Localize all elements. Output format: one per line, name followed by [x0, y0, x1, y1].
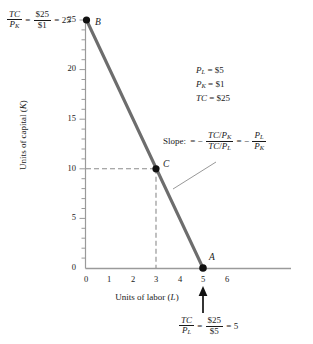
slope-ratio-fraction: TC/PK TC/PL	[206, 131, 233, 152]
isocost-figure: TC PK = $25 $1 = 25 PL = $5 PK = $1 TC =…	[0, 0, 313, 344]
slope-equals-1: =	[190, 137, 195, 146]
x-tick-label-3: 3	[149, 274, 163, 284]
l-intercept-formula: TC PL = $25 $5 = 5	[178, 316, 238, 337]
point-label-C: C	[163, 159, 169, 169]
y-tick-label-10: 10	[58, 163, 76, 173]
price-of-capital-line: PK = $1	[196, 78, 230, 92]
pk-value: = $1	[208, 79, 224, 89]
slope-leader-line	[173, 162, 216, 189]
dollar-fraction-bottom: $25 $5	[206, 316, 224, 336]
total-cost-line: TC = $25	[196, 92, 230, 106]
y-tick-label-15: 15	[58, 113, 76, 123]
tc-value: = $25	[209, 93, 230, 103]
pl-subscript: L	[202, 68, 206, 75]
pl-value: = $5	[207, 65, 223, 75]
y-axis-title-symbol: K	[18, 103, 28, 109]
x-tick-label-1: 1	[102, 274, 116, 284]
l-intercept-value: 5	[234, 322, 239, 331]
y-axis-title: Units of capital (K)	[18, 75, 28, 195]
slope-minus-1: −	[198, 137, 203, 146]
slope-minus-2: −	[244, 137, 249, 146]
pk-subscript: K	[202, 82, 206, 89]
guide-lines	[86, 169, 156, 268]
x-tick-label-4: 4	[173, 274, 187, 284]
slope-denominator: TC/PL	[206, 142, 233, 152]
dollar5-denominator: $5	[206, 327, 224, 336]
slope-label: Slope:	[163, 137, 186, 146]
x-tick-label-6: 6	[220, 274, 234, 284]
x-tick-label-5: 5	[196, 274, 210, 284]
y-tick-label-0: 0	[58, 262, 76, 272]
slope-annotation: Slope: = − TC/PK TC/PL = − PL PK	[163, 131, 267, 152]
pk-denominator: PK	[7, 20, 22, 30]
tc-over-pl-fraction: TC PL	[179, 316, 194, 337]
x-tick-label-2: 2	[126, 274, 140, 284]
price-parameters-block: PL = $5 PK = $1 TC = $25	[196, 64, 230, 106]
price-ratio-fraction: PL PK	[252, 131, 266, 152]
equals-sign-3: =	[197, 322, 202, 331]
pl-denominator: PL	[179, 326, 194, 336]
y-tick-label-20: 20	[58, 63, 76, 73]
y-tick-label-5: 5	[58, 212, 76, 222]
point-C	[152, 165, 159, 172]
point-label-B: B	[95, 17, 101, 27]
price-ratio-denominator: PK	[252, 142, 266, 152]
point-B	[83, 16, 90, 23]
equals-sign-1: =	[25, 16, 30, 25]
price-of-labor-line: PL = $5	[196, 64, 230, 78]
dollar-fraction: $25 $1	[34, 10, 52, 30]
equals-sign-4: =	[226, 322, 231, 331]
x-tick-label-0: 0	[79, 274, 93, 284]
tc-symbol: TC	[196, 93, 207, 103]
tc-over-pk-fraction: TC PK	[7, 10, 22, 31]
point-A	[199, 264, 207, 272]
dollar1-denominator: $1	[34, 21, 52, 30]
x-axis-title-symbol: L	[171, 292, 176, 302]
y-axis-ticks	[80, 20, 86, 258]
slope-equals-2: =	[237, 137, 242, 146]
y-tick-label-25: 25	[58, 14, 76, 24]
point-label-A: A	[209, 252, 215, 262]
x-axis-title: Units of labor (L)	[72, 292, 222, 302]
